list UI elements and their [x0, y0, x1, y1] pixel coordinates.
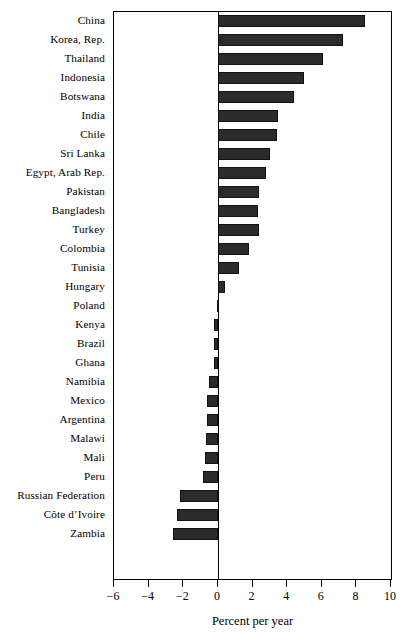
bar-row — [114, 126, 391, 145]
x-axis-tick — [217, 580, 218, 587]
x-axis-tick-label: −2 — [176, 589, 189, 604]
bar — [218, 262, 239, 274]
category-label: Turkey — [0, 220, 109, 239]
category-label: Hungary — [0, 277, 109, 296]
x-axis-tick-label: −4 — [141, 589, 154, 604]
category-label: Argentina — [0, 410, 109, 429]
x-axis-tick — [390, 580, 391, 587]
bar — [206, 433, 218, 445]
bar — [207, 395, 217, 407]
bar-row — [114, 468, 391, 487]
bar — [218, 34, 343, 46]
bar-row — [114, 297, 391, 316]
x-axis-tick — [355, 580, 356, 587]
bar-row — [114, 278, 391, 297]
x-axis-tick — [286, 580, 287, 587]
category-label: Korea, Rep. — [0, 30, 109, 49]
bar-row — [114, 50, 391, 69]
bar-chart: ChinaKorea, Rep.ThailandIndonesiaBotswan… — [0, 0, 406, 639]
category-label: India — [0, 106, 109, 125]
x-axis-tick — [148, 580, 149, 587]
bar-row — [114, 183, 391, 202]
bar — [218, 281, 225, 293]
bar — [218, 205, 258, 217]
bar — [214, 338, 217, 350]
x-axis-tick-label: 6 — [318, 589, 324, 604]
category-label: Mexico — [0, 391, 109, 410]
bar — [218, 72, 305, 84]
bar — [218, 91, 294, 103]
bar-row — [114, 373, 391, 392]
bar-row — [114, 259, 391, 278]
bar — [214, 319, 217, 331]
category-label: Malawi — [0, 429, 109, 448]
x-axis-title: Percent per year — [113, 614, 392, 629]
bar — [218, 15, 365, 27]
category-label: Ghana — [0, 353, 109, 372]
bar-row — [114, 449, 391, 468]
category-label: Mali — [0, 448, 109, 467]
category-label: Thailand — [0, 49, 109, 68]
x-axis-tick-label: 4 — [283, 589, 289, 604]
bar — [177, 509, 218, 521]
bar-row — [114, 107, 391, 126]
bar-row — [114, 164, 391, 183]
x-axis-tick-label: 8 — [352, 589, 358, 604]
category-label: Russian Federation — [0, 486, 109, 505]
bar — [180, 490, 218, 502]
x-axis-ticks — [113, 580, 392, 589]
bar-row — [114, 88, 391, 107]
category-label: Brazil — [0, 334, 109, 353]
bar — [218, 224, 260, 236]
category-label: Peru — [0, 467, 109, 486]
x-axis-tick — [113, 580, 114, 587]
category-label: Pakistan — [0, 182, 109, 201]
bar — [214, 357, 218, 369]
category-axis-labels: ChinaKorea, Rep.ThailandIndonesiaBotswan… — [0, 11, 109, 543]
bar-row — [114, 525, 391, 544]
bar — [218, 243, 249, 255]
bar-row — [114, 202, 391, 221]
category-label: Poland — [0, 296, 109, 315]
bar-row — [114, 506, 391, 525]
x-axis-tick-labels: −6−4−20246810 — [113, 589, 392, 605]
bar — [217, 300, 219, 312]
bar — [209, 376, 218, 388]
category-label: Kenya — [0, 315, 109, 334]
bar-row — [114, 221, 391, 240]
x-axis-tick-label: 2 — [249, 589, 255, 604]
x-axis-tick — [321, 580, 322, 587]
bar — [218, 129, 277, 141]
bar-row — [114, 392, 391, 411]
x-axis-tick-label: −6 — [107, 589, 120, 604]
x-axis-tick — [182, 580, 183, 587]
bar-row — [114, 335, 391, 354]
bar — [218, 148, 270, 160]
bar-row — [114, 240, 391, 259]
category-label: Colombia — [0, 239, 109, 258]
category-label: Botswana — [0, 87, 109, 106]
bar-row — [114, 430, 391, 449]
category-label: Côte d’Ivoire — [0, 505, 109, 524]
category-label: Egypt, Arab Rep. — [0, 163, 109, 182]
bar-row — [114, 411, 391, 430]
bar — [173, 528, 218, 540]
bar — [218, 53, 324, 65]
bar — [203, 471, 218, 483]
category-label: Chile — [0, 125, 109, 144]
bar — [218, 186, 260, 198]
bar — [207, 414, 218, 426]
category-label: China — [0, 11, 109, 30]
category-label: Bangladesh — [0, 201, 109, 220]
bar — [218, 167, 266, 179]
category-label: Tunisia — [0, 258, 109, 277]
bar-row — [114, 354, 391, 373]
bars-layer — [114, 12, 391, 579]
x-axis-tick-label: 10 — [384, 589, 396, 604]
bar-row — [114, 12, 391, 31]
plot-area — [113, 11, 392, 580]
bar-row — [114, 145, 391, 164]
x-axis-tick — [252, 580, 253, 587]
x-axis-tick-label: 0 — [214, 589, 220, 604]
bar — [218, 110, 279, 122]
